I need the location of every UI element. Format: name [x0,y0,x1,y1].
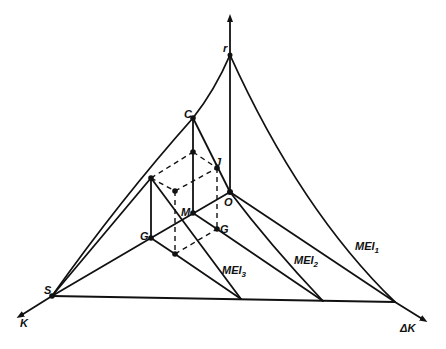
delta-k-axis [395,302,424,320]
dashed-edge [175,229,217,254]
s-to-vertex-line [52,178,151,296]
point-g-left [148,235,154,241]
bottom-vertex-to-base-line [175,254,241,299]
point-back-top [190,149,196,155]
label-m: M [181,206,191,218]
dashed-edge [151,152,193,178]
left-boundary-curve [52,55,230,296]
mei-diagram: r C J M O G G S K ΔK MEI3 MEI2 MEI1 [0,0,446,349]
point-m [190,210,196,216]
label-g-left: G [140,230,149,242]
m-to-g-right-line [193,213,217,229]
dashed-edge [175,168,217,191]
point-g-right [214,226,220,232]
base-line [52,296,395,302]
label-mei1: MEI1 [355,240,380,255]
point-o [227,189,233,195]
label-mei3: MEI3 [222,264,247,279]
s-to-g-line [52,238,151,296]
g-to-base-line [151,238,175,254]
label-o: O [224,196,233,208]
dashed-edge [151,178,175,191]
label-j: J [215,156,222,168]
label-mei2: MEI2 [294,254,319,269]
label-s: S [44,284,52,296]
label-delta-k: ΔK [399,322,416,334]
point-bottom [172,251,178,257]
label-k: K [20,317,29,329]
point-upper-left [148,175,154,181]
point-r [228,53,233,58]
label-r: r [223,42,228,54]
c-to-o-line [193,118,230,192]
label-c: C [184,108,193,120]
label-g-right: G [220,223,229,235]
k-axis [20,296,52,316]
point-front-top [172,188,178,194]
